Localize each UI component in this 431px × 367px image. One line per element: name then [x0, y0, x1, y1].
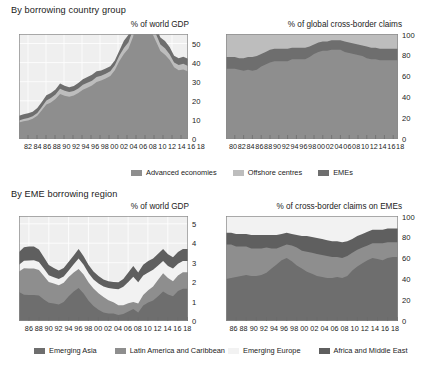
legend-swatch-africa-and-middle-east [319, 348, 330, 354]
section-title-by-eme-borrowing-region: By EME borrowing region [11, 189, 117, 199]
legend-swatch-emes [318, 170, 329, 176]
panel-3-series-stack [19, 247, 188, 321]
xtick: 18 [388, 324, 402, 333]
panel-cross-border-claims-on-emes: % of cross-border claims on EMEs [222, 202, 422, 352]
panel-4-plot-area: 0 20 40 60 80 100 [226, 216, 398, 321]
panel-3-area-svg [19, 216, 188, 321]
legend-swatch-emerging-europe [228, 348, 239, 354]
legend-bottom-right: Emerging Europe Africa and Middle East [228, 346, 407, 355]
panel-4-series-stack [226, 216, 398, 321]
panel-2-ytick-20: 20 [402, 114, 410, 123]
panel-1-ytick-30: 30 [192, 78, 200, 87]
panel-world-gdp-by-eme-region: % of world GDP [11, 202, 211, 352]
xtick: 18 [393, 142, 407, 151]
panel-3-ytick-5: 5 [192, 220, 196, 229]
panel-3-ytick-1: 1 [192, 298, 196, 307]
panel-4-ytick-20: 20 [402, 296, 410, 305]
legend-label-latin-america-and-caribbean: Latin America and Caribbean [130, 346, 225, 355]
panel-1-ytick-50: 50 [192, 40, 200, 49]
panel-4-ytick-80: 80 [402, 233, 410, 242]
panel-2-ytick-80: 80 [402, 51, 410, 60]
panel-3-unit-title: % of world GDP [19, 202, 189, 211]
legend-bottom-left: Emerging Asia Latin America and Caribbea… [34, 346, 225, 355]
panel-1-ytick-10: 10 [192, 116, 200, 125]
panel-3-ytick-4: 4 [192, 239, 196, 248]
panel-1-unit-title: % of world GDP [19, 20, 189, 29]
panel-world-gdp-by-country-group: % of world GDP [11, 20, 211, 170]
legend-label-africa-and-middle-east: Africa and Middle East [334, 346, 408, 355]
panel-1-series-stack [19, 34, 188, 139]
legend-label-emerging-asia: Emerging Asia [49, 346, 97, 355]
legend-label-advanced-economies: Advanced economies [146, 168, 217, 177]
legend-item-latin-america-and-caribbean: Latin America and Caribbean [115, 346, 225, 355]
panel-3-ytick-2: 2 [192, 278, 196, 287]
panel-2-plot-area: 0 20 40 60 80 100 [226, 34, 398, 139]
panel-1-plot-area: 0 10 20 30 40 50 [19, 34, 188, 139]
panel-2-ytick-40: 40 [402, 93, 410, 102]
xtick: 18 [180, 324, 194, 333]
panel-4-unit-title: % of cross-border claims on EMEs [226, 202, 402, 211]
legend-label-offshore-centres: Offshore centres [248, 168, 303, 177]
panel-2-series-stack [226, 34, 398, 139]
panel-3-plot-area: 0 1 2 3 4 5 [19, 216, 188, 321]
legend-swatch-advanced-economies [131, 170, 142, 176]
legend-item-advanced-economies: Advanced economies [131, 168, 217, 177]
panel-2-unit-title: % of global cross-border claims [226, 20, 402, 29]
legend-item-emerging-europe: Emerging Europe [228, 346, 301, 355]
legend-top: Advanced economies Offshore centres EMEs [131, 168, 353, 177]
legend-label-emerging-europe: Emerging Europe [243, 346, 301, 355]
legend-swatch-latin-america-and-caribbean [115, 348, 126, 354]
legend-label-emes: EMEs [333, 168, 353, 177]
panel-2-ytick-60: 60 [402, 72, 410, 81]
panel-1-area-svg [19, 34, 188, 139]
legend-swatch-offshore-centres [233, 170, 244, 176]
panel-4-ytick-100: 100 [402, 213, 415, 222]
panel-1-ytick-40: 40 [192, 59, 200, 68]
legend-item-offshore-centres: Offshore centres [233, 168, 303, 177]
panel-global-cross-border-claims: % of global cross-border claims [222, 20, 422, 170]
legend-item-emerging-asia: Emerging Asia [34, 346, 97, 355]
legend-item-africa-and-middle-east: Africa and Middle East [319, 346, 408, 355]
panel-1-ytick-20: 20 [192, 97, 200, 106]
panel-2-area-svg [226, 34, 398, 139]
panel-4-ytick-60: 60 [402, 254, 410, 263]
legend-swatch-emerging-asia [34, 348, 45, 354]
panel-4-area-svg [226, 216, 398, 321]
section-title-by-borrowing-country-group: By borrowing country group [11, 5, 126, 15]
panel-4-ytick-0: 0 [402, 317, 406, 326]
panel-2-ytick-100: 100 [402, 31, 415, 40]
panel-3-ytick-3: 3 [192, 259, 196, 268]
legend-item-emes: EMEs [318, 168, 353, 177]
xtick: 18 [194, 142, 208, 151]
panel-4-ytick-40: 40 [402, 275, 410, 284]
